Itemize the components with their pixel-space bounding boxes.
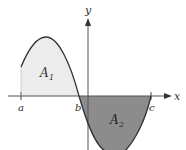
point-b-label: b (75, 102, 81, 113)
point-c-label: c (149, 102, 155, 113)
x-axis-arrow-icon (164, 93, 172, 99)
y-axis-label: y (84, 4, 92, 17)
region-a1 (21, 37, 79, 96)
svg-text:1: 1 (49, 73, 54, 82)
x-axis-label: x (174, 90, 181, 103)
area-diagram: y x a b c A 1 A 2 (0, 0, 186, 150)
svg-text:2: 2 (118, 120, 124, 129)
svg-text:A: A (109, 113, 119, 127)
y-axis-arrow-icon (85, 18, 91, 26)
point-a-label: a (18, 102, 24, 113)
svg-text:A: A (39, 66, 49, 80)
